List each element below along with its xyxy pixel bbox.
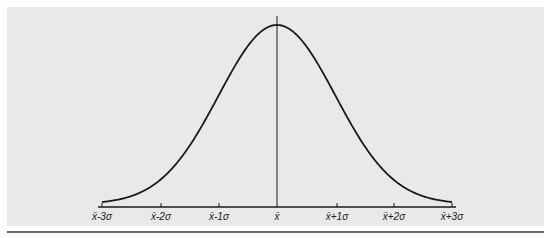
bell-curve-chart: x̄-3σx̄-2σx̄-1σx̄x̄+1σx̄+2σx̄+3σ [0,0,550,238]
tick-label: x̄+2σ [382,211,406,222]
tick-label: x̄-3σ [91,211,113,222]
tick-label: x̄+1σ [325,211,349,222]
tick-label: x̄+3σ [440,211,464,222]
tick-label: x̄-1σ [208,211,230,222]
tick-labels: x̄-3σx̄-2σx̄-1σx̄x̄+1σx̄+2σx̄+3σ [91,211,464,222]
tick-label: x̄ [274,211,281,222]
tick-label: x̄-2σ [150,211,172,222]
